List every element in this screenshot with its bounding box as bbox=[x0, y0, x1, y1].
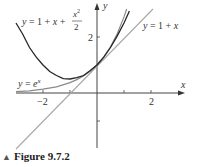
tangent-line-label: y = 1 + x bbox=[142, 20, 179, 31]
quadratic-label: y = 1 + x + bbox=[21, 16, 66, 27]
x-axis-label: x bbox=[180, 79, 186, 90]
y-axis-label: y bbox=[102, 0, 108, 11]
tick-label-y2: 2 bbox=[88, 32, 93, 43]
tick-label-neg2: −2 bbox=[37, 96, 48, 107]
figure-caption-text: Figure 9.7.2 bbox=[14, 150, 70, 162]
quadratic-label-numerator: x2 bbox=[72, 8, 80, 19]
figure-plot: x y −2 2 2 y = 1 + x + x2 2 y = 1 + x y … bbox=[0, 0, 197, 150]
y-axis-arrow-icon bbox=[95, 3, 100, 10]
quadratic-label-denominator: 2 bbox=[74, 22, 79, 32]
figure-caption: ▲Figure 9.7.2 bbox=[2, 150, 70, 162]
triangle-marker-icon: ▲ bbox=[2, 152, 11, 162]
tick-label-pos2: 2 bbox=[149, 96, 154, 107]
x-axis-arrow-icon bbox=[178, 91, 185, 96]
exp-label: y = ex bbox=[17, 77, 42, 89]
